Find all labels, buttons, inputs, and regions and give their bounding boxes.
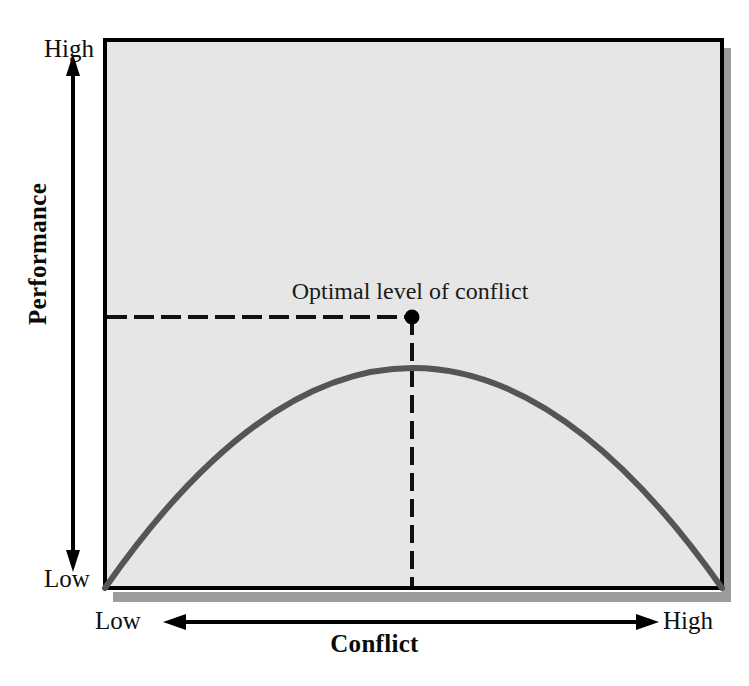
optimal-point-marker xyxy=(405,310,420,325)
optimal-level-annotation: Optimal level of conflict xyxy=(160,278,660,305)
chart-canvas xyxy=(0,0,749,686)
conflict-performance-figure: High Low Performance Low High Conflict O… xyxy=(0,0,749,686)
y-axis-low-label: Low xyxy=(44,566,90,591)
y-axis-high-label: High xyxy=(44,36,94,61)
plot-shadow-bottom xyxy=(113,592,730,602)
x-axis-title: Conflict xyxy=(0,630,749,658)
y-axis-arrow-icon xyxy=(66,54,80,572)
x-axis-arrow-icon xyxy=(163,614,659,630)
y-axis-title: Performance xyxy=(24,154,52,354)
